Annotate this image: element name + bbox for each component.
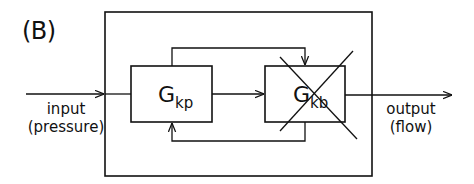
gkp-label-subscript: kp: [175, 94, 193, 112]
gkb-label-main: G: [293, 82, 310, 107]
gkp-label-main: G: [158, 82, 175, 107]
output-label: output: [366, 102, 456, 117]
gkb-label-subscript: kb: [310, 94, 328, 112]
input-sublabel: (pressure): [21, 120, 111, 135]
gkp-label: Gkp: [158, 84, 193, 106]
output-sublabel: (flow): [366, 120, 456, 135]
panel-label: (B): [22, 19, 56, 43]
block-diagram: [0, 0, 474, 184]
input-label: input: [21, 102, 111, 117]
gkb-label: Gkb: [293, 84, 328, 106]
